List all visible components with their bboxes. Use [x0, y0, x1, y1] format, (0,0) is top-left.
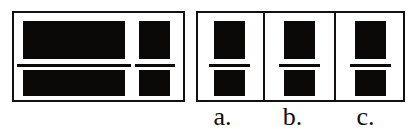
option-b-rule: [279, 64, 320, 67]
options-group: [196, 11, 405, 102]
option-b-bottom-block: [284, 70, 315, 96]
option-c-rule: [350, 64, 391, 67]
option-cell-c[interactable]: [334, 13, 403, 100]
stimulus-wide-bottom-block: [23, 70, 125, 96]
option-label-b: b.: [270, 103, 315, 131]
option-b-top-block: [284, 21, 315, 59]
option-cell-b[interactable]: [263, 13, 334, 100]
option-c-top-block: [355, 21, 386, 59]
stimulus-narrow-top-block: [139, 21, 170, 59]
stimulus-narrow-bottom-block: [139, 70, 170, 96]
stimulus-wide-rule: [17, 64, 131, 67]
stimulus-narrow-rule: [135, 64, 175, 67]
stimulus-wide-top-block: [23, 21, 125, 59]
option-a-top-block: [214, 21, 245, 59]
option-label-c: c.: [343, 103, 388, 131]
option-a-bottom-block: [214, 70, 245, 96]
figure-canvas: a. b. c.: [0, 0, 410, 134]
option-cell-a[interactable]: [198, 13, 263, 100]
stimulus-panel: [12, 11, 185, 102]
option-a-rule: [209, 64, 250, 67]
option-label-a: a.: [200, 103, 245, 131]
option-c-bottom-block: [355, 70, 386, 96]
